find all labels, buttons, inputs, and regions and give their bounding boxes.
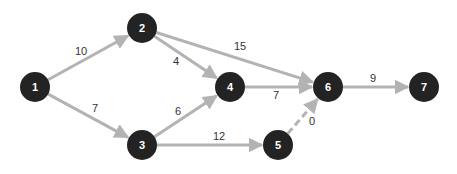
edge-label-5-6: 0	[309, 115, 315, 127]
node-4: 4	[215, 72, 245, 102]
edge-label-4-6: 7	[273, 89, 279, 101]
edge-label-3-5: 12	[213, 130, 225, 142]
node-6: 6	[313, 72, 343, 102]
edge-label-2-6: 15	[234, 40, 246, 52]
edge-1-3	[48, 94, 128, 137]
node-7: 7	[409, 72, 439, 102]
node-2: 2	[127, 13, 157, 43]
edge-3-4	[155, 96, 217, 137]
node-1: 1	[20, 72, 50, 102]
edge-label-6-7: 9	[370, 72, 376, 84]
network-diagram: 107415612709 1234567	[0, 0, 457, 174]
node-5: 5	[263, 130, 293, 160]
node-3: 3	[127, 130, 157, 160]
edge-label-3-4: 6	[175, 105, 181, 117]
edge-label-2-4: 4	[173, 55, 179, 67]
edge-label-1-3: 7	[92, 102, 98, 114]
edge-label-1-2: 10	[75, 45, 87, 57]
edge-1-2	[48, 36, 128, 80]
